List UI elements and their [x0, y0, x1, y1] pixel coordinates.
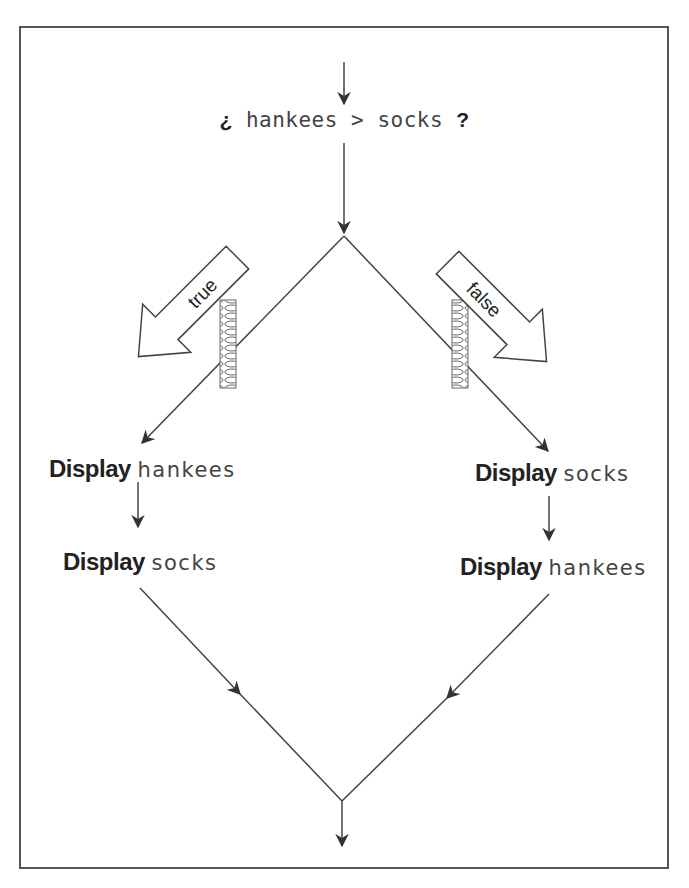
left-step-1: Display hankees — [49, 455, 236, 483]
true-arrow-shape-icon — [114, 234, 261, 381]
left-merge-arrow — [140, 588, 240, 694]
true-sign-spring-icon — [220, 300, 236, 388]
left-step-1-keyword: Display — [49, 455, 131, 482]
false-sign: false — [424, 239, 571, 388]
condition-open-mark: ¿ — [219, 108, 232, 131]
condition-text: ¿ hankees > socks ? — [0, 108, 689, 132]
false-sign-spring-icon — [452, 300, 468, 388]
right-step-1-keyword: Display — [475, 459, 557, 486]
left-step-2-keyword: Display — [63, 548, 145, 575]
right-step-1-value: socks — [564, 462, 630, 486]
left-step-2: Display socks — [63, 548, 217, 576]
flowchart-lines: true false — [0, 0, 689, 888]
right-merge-arrow — [447, 594, 549, 698]
left-step-1-value: hankees — [138, 458, 236, 482]
right-step-2-value: hankees — [549, 556, 647, 580]
true-sign: true — [114, 234, 261, 388]
condition-right-operand: socks — [377, 108, 443, 132]
condition-operator: > — [351, 108, 364, 132]
right-step-2-keyword: Display — [460, 553, 542, 580]
condition-left-operand: hankees — [246, 108, 338, 132]
left-step-2-value: socks — [152, 551, 218, 575]
left-merge-line — [240, 694, 342, 801]
right-merge-line — [342, 698, 447, 801]
right-step-1: Display socks — [475, 459, 629, 487]
right-step-2: Display hankees — [460, 553, 647, 581]
condition-close-mark: ? — [456, 108, 469, 131]
